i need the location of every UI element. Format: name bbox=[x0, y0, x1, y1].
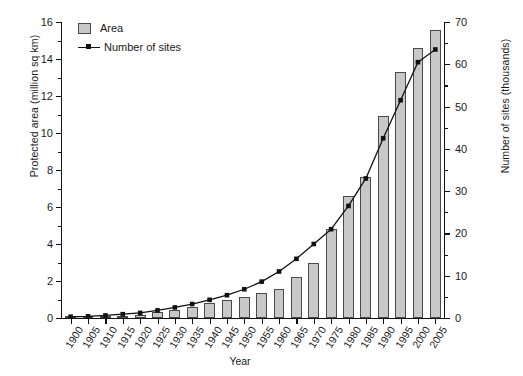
y-tick-right bbox=[444, 22, 450, 23]
bar bbox=[413, 48, 424, 318]
legend-item-area: Area bbox=[78, 20, 181, 36]
bar bbox=[152, 312, 163, 318]
y-tick-right-minor bbox=[444, 297, 448, 298]
y-tick-left-minor bbox=[58, 78, 62, 79]
bar bbox=[169, 310, 180, 318]
bar bbox=[360, 177, 371, 318]
legend-label-area: Area bbox=[100, 22, 123, 34]
bar bbox=[65, 316, 76, 318]
y-tick-left bbox=[56, 318, 62, 319]
x-tick bbox=[88, 318, 89, 324]
y-tick-left-minor bbox=[58, 300, 62, 301]
y-tick-label-left: 10 bbox=[41, 127, 53, 139]
y-tick-right-minor bbox=[444, 212, 448, 213]
y-tick-left-minor bbox=[58, 152, 62, 153]
y-tick-left-minor bbox=[58, 115, 62, 116]
legend-item-number-of-sites: Number of sites bbox=[78, 39, 181, 55]
y-tick-label-right: 10 bbox=[455, 270, 467, 282]
y-tick-left bbox=[56, 22, 62, 23]
x-tick bbox=[105, 318, 106, 324]
x-tick bbox=[123, 318, 124, 324]
bar bbox=[239, 297, 250, 318]
line-data-point bbox=[259, 279, 264, 284]
bar bbox=[204, 303, 215, 318]
bar bbox=[378, 116, 389, 318]
y-axis-left-title: Protected area (million sq km) bbox=[28, 0, 40, 226]
y-tick-label-left: 4 bbox=[47, 238, 53, 250]
y-tick-label-right: 70 bbox=[455, 16, 467, 28]
x-tick bbox=[140, 318, 141, 324]
y-tick-right-minor bbox=[444, 170, 448, 171]
bar bbox=[395, 72, 406, 318]
chart-figure: Protected area (million sq km) Number of… bbox=[0, 0, 523, 376]
y-tick-label-right: 60 bbox=[455, 58, 467, 70]
y-tick-left-minor bbox=[58, 263, 62, 264]
x-axis-title: Year bbox=[0, 355, 480, 367]
legend-swatch-area-icon bbox=[78, 23, 91, 34]
y-tick-label-right: 20 bbox=[455, 227, 467, 239]
y-tick-right bbox=[444, 233, 450, 234]
y-tick-right-minor bbox=[444, 43, 448, 44]
chart-legend: Area Number of sites bbox=[78, 20, 181, 58]
line-data-point bbox=[294, 257, 299, 262]
y-tick-label-right: 40 bbox=[455, 143, 467, 155]
y-tick-label-right: 30 bbox=[455, 185, 467, 197]
bar bbox=[343, 196, 354, 318]
legend-line-marker-icon bbox=[78, 42, 100, 53]
x-tick bbox=[279, 318, 280, 324]
line-data-point bbox=[277, 269, 282, 274]
x-tick bbox=[262, 318, 263, 324]
x-tick bbox=[331, 318, 332, 324]
bar bbox=[222, 300, 233, 318]
bar bbox=[187, 307, 198, 318]
y-tick-label-left: 8 bbox=[47, 164, 53, 176]
x-tick bbox=[401, 318, 402, 324]
y-tick-label-left: 0 bbox=[47, 312, 53, 324]
y-tick-left bbox=[56, 96, 62, 97]
y-tick-right bbox=[444, 64, 450, 65]
y-axis-right-title: Number of sites (thousands) bbox=[499, 0, 511, 226]
y-tick-label-left: 14 bbox=[41, 53, 53, 65]
plot-area: 0246810121416 010203040506070 1900190519… bbox=[62, 22, 444, 318]
bar bbox=[83, 316, 94, 318]
y-tick-right bbox=[444, 149, 450, 150]
x-tick bbox=[244, 318, 245, 324]
y-tick-label-left: 6 bbox=[47, 201, 53, 213]
x-tick bbox=[314, 318, 315, 324]
y-tick-label-right: 0 bbox=[455, 312, 461, 324]
bar bbox=[135, 315, 146, 318]
line-data-point bbox=[311, 242, 316, 247]
x-tick bbox=[210, 318, 211, 324]
y-tick-left bbox=[56, 59, 62, 60]
line-data-point bbox=[207, 298, 212, 303]
y-tick-left-minor bbox=[58, 189, 62, 190]
x-tick bbox=[175, 318, 176, 324]
y-tick-label-left: 2 bbox=[47, 275, 53, 287]
bar bbox=[308, 263, 319, 319]
y-tick-label-left: 16 bbox=[41, 16, 53, 28]
x-tick bbox=[227, 318, 228, 324]
y-tick-left-minor bbox=[58, 226, 62, 227]
x-tick bbox=[418, 318, 419, 324]
bar bbox=[117, 316, 128, 318]
y-tick-label-right: 50 bbox=[455, 101, 467, 113]
line-data-point bbox=[225, 293, 230, 298]
y-tick-right bbox=[444, 276, 450, 277]
y-tick-left bbox=[56, 133, 62, 134]
y-tick-right bbox=[444, 191, 450, 192]
bar bbox=[256, 293, 267, 318]
x-tick bbox=[383, 318, 384, 324]
y-tick-right-minor bbox=[444, 128, 448, 129]
x-tick bbox=[435, 318, 436, 324]
x-tick bbox=[158, 318, 159, 324]
y-tick-right-minor bbox=[444, 85, 448, 86]
y-tick-left bbox=[56, 170, 62, 171]
bar bbox=[100, 316, 111, 318]
y-tick-label-left: 12 bbox=[41, 90, 53, 102]
y-tick-left bbox=[56, 281, 62, 282]
line-data-point bbox=[242, 287, 247, 292]
y-tick-right bbox=[444, 107, 450, 108]
bar bbox=[326, 229, 337, 318]
x-tick bbox=[296, 318, 297, 324]
y-tick-right bbox=[444, 318, 450, 319]
